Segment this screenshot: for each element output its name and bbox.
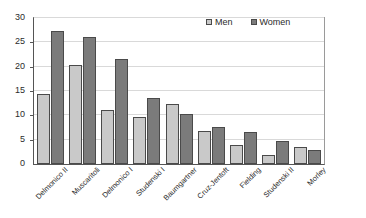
bar-group <box>230 18 257 164</box>
x-axis: Delmonico IIMuscaritoliDelmonico IStuden… <box>0 166 366 218</box>
bar-men[interactable] <box>262 155 275 164</box>
bar-group <box>69 18 96 164</box>
legend-entry-women[interactable]: Women <box>251 17 291 27</box>
legend-swatch-men-icon <box>206 19 212 25</box>
y-tick-label: 20 <box>15 62 25 71</box>
bar-chart: 051015202530 Delmonico IIMuscaritoliDelm… <box>0 0 366 218</box>
bar-group <box>37 18 64 164</box>
bar-women[interactable] <box>83 37 96 165</box>
y-tick-label: 25 <box>15 37 25 46</box>
bar-group <box>166 18 193 164</box>
bar-women[interactable] <box>147 98 160 164</box>
bar-group <box>198 18 225 164</box>
bar-group <box>133 18 160 164</box>
bar-women[interactable] <box>212 127 225 164</box>
legend-entry-men[interactable]: Men <box>206 17 233 27</box>
bar-women[interactable] <box>180 114 193 164</box>
bar-men[interactable] <box>101 110 114 165</box>
bar-men[interactable] <box>198 131 211 164</box>
bar-men[interactable] <box>294 147 307 164</box>
bars-layer <box>34 18 324 164</box>
bar-group <box>262 18 289 164</box>
legend-label-women: Women <box>260 17 291 27</box>
legend-swatch-women-icon <box>251 19 257 25</box>
bar-women[interactable] <box>308 150 321 164</box>
bar-women[interactable] <box>51 31 64 164</box>
bar-group <box>101 18 128 164</box>
bar-men[interactable] <box>230 145 243 164</box>
bar-women[interactable] <box>244 132 257 164</box>
bar-group <box>294 18 321 164</box>
bar-men[interactable] <box>133 117 146 164</box>
bar-women[interactable] <box>115 59 128 164</box>
bar-men[interactable] <box>37 94 50 164</box>
legend-label-men: Men <box>215 17 233 27</box>
y-tick-label: 15 <box>15 86 25 95</box>
y-tick-label: 5 <box>20 135 25 144</box>
chart-legend: Men Women <box>206 17 290 27</box>
bar-women[interactable] <box>276 141 289 164</box>
y-tick-label: 30 <box>15 13 25 22</box>
y-tick-label: 10 <box>15 110 25 119</box>
bar-men[interactable] <box>166 104 179 164</box>
bar-men[interactable] <box>69 65 82 164</box>
